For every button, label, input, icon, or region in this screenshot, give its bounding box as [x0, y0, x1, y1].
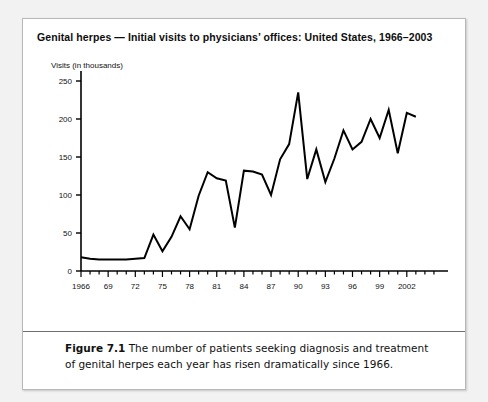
- x-tick-label-1990: 90: [294, 282, 303, 291]
- chart-area: Visits (in thousands) 050100150200250196…: [23, 61, 467, 329]
- data-series-line: [81, 92, 416, 259]
- y-tick-label-50: 50: [63, 229, 72, 238]
- x-tick-label-1987: 87: [267, 282, 276, 291]
- y-tick-label-250: 250: [59, 77, 73, 86]
- chart-title: Genital herpes — Initial visits to physi…: [37, 31, 432, 43]
- y-tick-label-200: 200: [59, 115, 73, 124]
- x-tick-label-1978: 78: [185, 282, 194, 291]
- line-chart-plot: 0501001502002501966697275788184879093969…: [23, 61, 467, 329]
- y-tick-label-100: 100: [59, 191, 73, 200]
- figure-caption-label: Figure 7.1: [65, 342, 125, 354]
- caption-divider: [23, 331, 465, 332]
- figure-caption: Figure 7.1 The number of patients seekin…: [65, 341, 435, 372]
- x-tick-label-1969: 69: [104, 282, 113, 291]
- y-tick-label-150: 150: [59, 153, 73, 162]
- x-tick-label-1993: 93: [321, 282, 330, 291]
- x-tick-label-1996: 96: [348, 282, 357, 291]
- x-tick-label-2002: 2002: [398, 282, 416, 291]
- x-tick-label-1972: 72: [131, 282, 140, 291]
- x-tick-label-1981: 81: [212, 282, 221, 291]
- x-tick-label-1999: 99: [375, 282, 384, 291]
- x-tick-label-1966: 1966: [72, 282, 90, 291]
- y-tick-label-0: 0: [68, 267, 73, 276]
- x-tick-label-1984: 84: [239, 282, 248, 291]
- figure-panel: Genital herpes — Initial visits to physi…: [22, 18, 466, 390]
- x-tick-label-1975: 75: [158, 282, 167, 291]
